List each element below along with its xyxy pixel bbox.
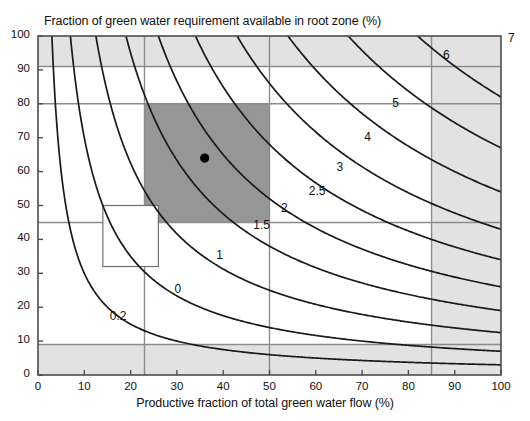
contour-label-1.5: 1.5 [253,218,270,232]
x-tick-label-100: 100 [486,380,516,392]
y-tick-label-60: 60 [2,164,30,176]
contour-label-2.5: 2.5 [309,184,326,198]
contour-label-5: 5 [392,96,399,110]
right-band [432,36,501,375]
y-tick-label-80: 80 [2,96,30,108]
y-tick-label-40: 40 [2,231,30,243]
contour-label-0.2: 0.2 [110,309,127,323]
contour-label-7: 7 [508,31,515,45]
x-tick-label-10: 10 [69,380,99,392]
dark-region [144,104,269,223]
contour-label-3: 3 [337,160,344,174]
y-tick-label-10: 10 [2,333,30,345]
y-tick-label-0: 0 [2,367,30,379]
y-tick-label-50: 50 [2,198,30,210]
x-tick-label-90: 90 [440,380,470,392]
y-tick-label-70: 70 [2,130,30,142]
contour-chart-figure: Fraction of green water requirement avai… [0,0,530,421]
x-tick-label-30: 30 [162,380,192,392]
marker-point[interactable] [200,153,209,162]
contour-label-1: 1 [216,248,223,262]
x-tick-label-0: 0 [23,380,53,392]
contour-line-7 [395,0,503,37]
x-axis-label: Productive fraction of total green water… [0,396,530,410]
y-tick-label-90: 90 [2,62,30,74]
y-tick-label-30: 30 [2,265,30,277]
contour-label-0: 0 [175,282,182,296]
contour-label-4: 4 [364,130,371,144]
x-tick-label-80: 80 [393,380,423,392]
x-tick-label-70: 70 [347,380,377,392]
y-tick-label-100: 100 [2,28,30,40]
contour-label-6: 6 [443,48,450,62]
x-tick-label-40: 40 [208,380,238,392]
y-tick-label-20: 20 [2,299,30,311]
x-tick-label-50: 50 [255,380,285,392]
x-tick-label-20: 20 [116,380,146,392]
plot-canvas [0,0,530,421]
contour-label-2: 2 [281,201,288,215]
x-tick-label-60: 60 [301,380,331,392]
